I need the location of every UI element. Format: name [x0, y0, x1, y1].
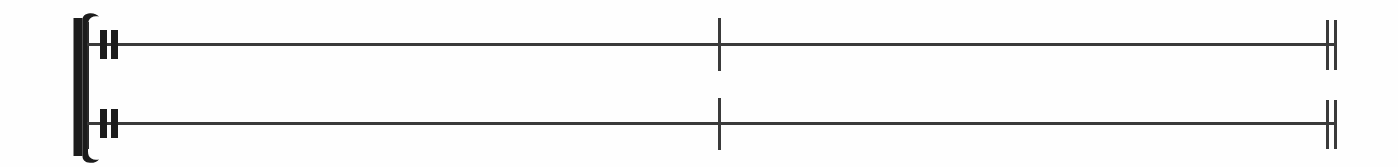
heavy-barline-left-outer	[100, 109, 107, 138]
score-canvas	[0, 0, 1398, 167]
staff-lower	[0, 0, 1398, 167]
end-barline-outer	[1326, 100, 1329, 149]
staff-line	[87, 122, 1337, 125]
mid-barline	[718, 98, 721, 150]
heavy-barline-left-inner	[111, 109, 118, 138]
end-barline-inner	[1334, 100, 1337, 149]
